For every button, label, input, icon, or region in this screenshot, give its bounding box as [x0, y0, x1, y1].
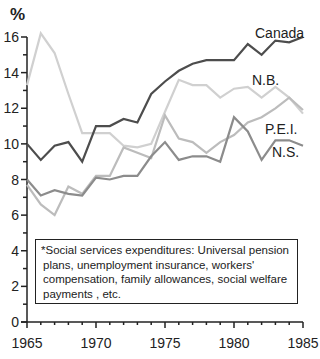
y-axis-unit: %	[10, 5, 25, 24]
footnote-line: payments , etc.	[41, 287, 297, 302]
footnote-box: *Social services expenditures: Universal…	[35, 239, 298, 304]
series-label-nb: N.B.	[252, 72, 279, 88]
series-label-canada: Canada	[255, 25, 304, 41]
y-tick-label: 4	[11, 243, 19, 259]
x-tick-label: 1980	[218, 335, 249, 351]
line-chart: 0246810121416 19651970197519801985 % Can…	[0, 0, 320, 359]
y-tick-label: 6	[11, 207, 19, 223]
x-tick-label: 1970	[80, 335, 111, 351]
y-tick-label: 2	[11, 278, 19, 294]
y-tick-label: 14	[3, 65, 19, 81]
footnote-line: compensation, family allowances, social …	[41, 272, 297, 287]
y-tick-label: 10	[3, 136, 19, 152]
series-label-ns: N.S.	[272, 144, 299, 160]
y-tick-label: 0	[11, 314, 19, 330]
series-line-nb	[27, 33, 303, 147]
x-tick-label: 1975	[149, 335, 180, 351]
series-line-ns	[27, 117, 303, 195]
series-label-pei: P.E.I.	[265, 121, 297, 137]
x-tick-label: 1985	[287, 335, 318, 351]
footnote-line: plans, unemployment insurance, workers'	[41, 258, 297, 273]
y-tick-label: 16	[3, 29, 19, 45]
footnote-line: *Social services expenditures: Universal…	[41, 243, 297, 258]
y-tick-label: 12	[3, 100, 19, 116]
y-tick-label: 8	[11, 172, 19, 188]
series-line-pei	[27, 98, 303, 216]
x-tick-label: 1965	[11, 335, 42, 351]
y-axis-labels: 0246810121416	[3, 29, 19, 330]
x-axis-labels: 19651970197519801985	[11, 335, 318, 351]
series-lines	[27, 33, 303, 215]
